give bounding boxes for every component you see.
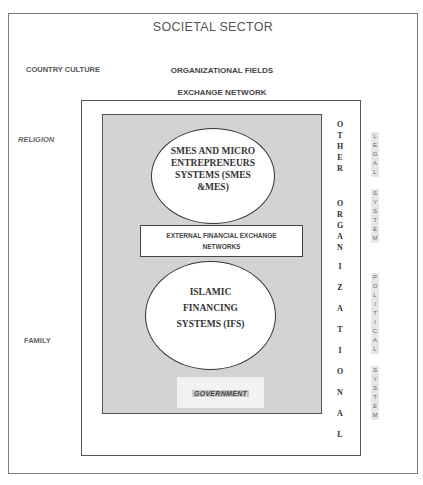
smes-ellipse: SMES AND MICRO ENTREPRENEURS SYSTEMS (SM… — [151, 128, 275, 224]
letter: A — [337, 303, 343, 324]
letter: L — [371, 291, 379, 300]
letter: N — [337, 242, 343, 253]
other-organizational-vertical-label: O T H E R O R G A N I Z A T I O N A L — [334, 119, 346, 450]
diagram-title: SOCIETAL SECTOR — [8, 20, 418, 34]
letter: L — [371, 345, 379, 354]
letter: I — [338, 261, 341, 282]
religion-label: RELIGION — [18, 135, 54, 144]
letter: E — [371, 402, 379, 411]
letter: T — [371, 309, 379, 318]
letter: T — [337, 130, 342, 141]
letter: E — [371, 225, 379, 234]
letter: R — [337, 209, 343, 220]
organizational-fields-label: ORGANIZATIONAL FIELDS — [8, 66, 418, 75]
letter: S — [371, 207, 379, 216]
ifs-ellipse-label: ISLAMIC FINANCING SYSTEMS (IFS) — [171, 284, 251, 332]
government-label: GOVERNMENT — [192, 390, 249, 397]
letter: H — [337, 141, 343, 152]
letter: A — [371, 159, 379, 168]
letter: A — [337, 408, 343, 429]
letter: C — [371, 327, 379, 336]
letter: O — [371, 282, 379, 291]
letter: P — [371, 273, 379, 282]
letter: A — [371, 336, 379, 345]
letter: S — [371, 366, 379, 375]
letter: I — [371, 318, 379, 327]
external-box-label: EXTERNAL FINANCIAL EXCHANGE NETWORKS — [159, 230, 284, 252]
letter: O — [337, 119, 343, 130]
letter: A — [337, 231, 343, 242]
exchange-network-label: EXCHANGE NETWORK — [8, 88, 418, 97]
word-gap — [371, 177, 379, 189]
political-system-vertical-label: P O L I T I C A L S Y S T E M — [370, 273, 380, 420]
letter: O — [337, 198, 343, 209]
letter: I — [338, 345, 341, 366]
letter: S — [371, 384, 379, 393]
letter: G — [337, 220, 343, 231]
letter: Y — [371, 198, 379, 207]
letter: M — [371, 234, 379, 243]
letter: L — [337, 429, 342, 450]
word-gap — [371, 354, 379, 366]
letter: N — [337, 387, 343, 408]
letter: M — [371, 411, 379, 420]
letter: T — [337, 324, 342, 345]
smes-ellipse-label: SMES AND MICRO ENTREPRENEURS SYSTEMS (SM… — [168, 145, 258, 193]
letter: T — [371, 393, 379, 402]
letter: L — [371, 132, 379, 141]
letter: L — [371, 168, 379, 177]
letter: O — [337, 366, 343, 387]
letter: Z — [337, 282, 342, 303]
letter: Y — [371, 375, 379, 384]
family-label: FAMILY — [24, 336, 51, 345]
letter: S — [371, 189, 379, 198]
external-financial-exchange-box: EXTERNAL FINANCIAL EXCHANGE NETWORKS — [140, 225, 303, 257]
letter: E — [371, 141, 379, 150]
ifs-ellipse: ISLAMIC FINANCING SYSTEMS (IFS) — [145, 261, 276, 370]
letter: E — [337, 152, 342, 163]
letter: I — [371, 300, 379, 309]
letter: R — [337, 163, 343, 174]
letter: T — [371, 216, 379, 225]
legal-system-vertical-label: L E G A L S Y S T E M — [370, 132, 380, 243]
letter: G — [371, 150, 379, 159]
government-box: GOVERNMENT — [177, 377, 264, 408]
